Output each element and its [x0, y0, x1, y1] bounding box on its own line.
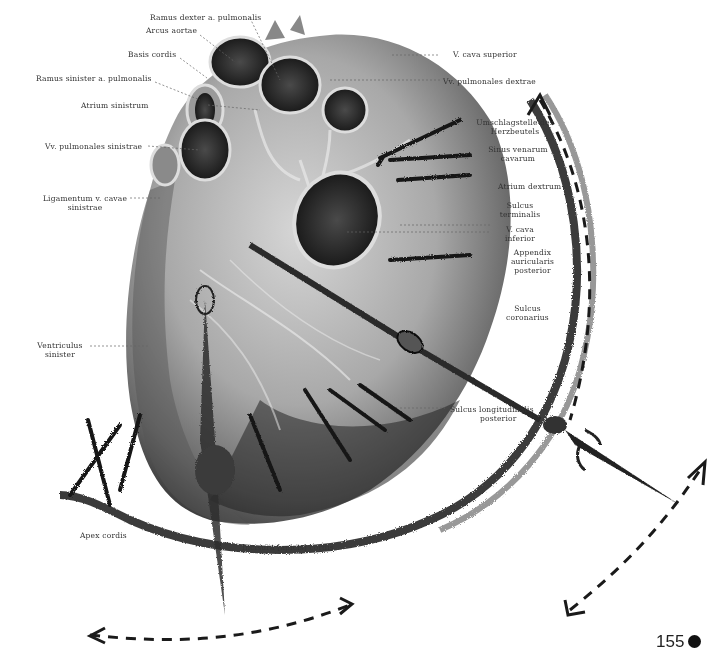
label-ligamentum-line2: sinistrae — [40, 203, 130, 212]
label-v-cava-superior: V. cava superior — [453, 50, 517, 59]
label-sulcus-coronarius-line1: Sulcus — [500, 304, 555, 313]
label-sulcus-terminalis-line1: Sulcus — [490, 201, 550, 210]
label-ventriculus-line1: Ventriculus — [30, 341, 90, 350]
label-sinus-venarum-cavarum: Sinus venarum cavarum — [478, 145, 558, 163]
heart-body — [126, 35, 511, 525]
label-umschlagstelle-line1: Umschlagstelle des — [470, 118, 560, 127]
label-v-cava-inferior-line2: inferior — [495, 234, 545, 243]
page-number: 155 — [656, 632, 701, 652]
label-vv-pulmonales-sinistrae: Vv. pulmonales sinistrae — [45, 142, 142, 151]
label-appendix-line1: Appendix — [505, 248, 560, 257]
label-sulcus-longitudinalis-line2: posterior — [450, 414, 534, 423]
label-v-cava-inferior: V. cava inferior — [495, 225, 545, 243]
label-sulcus-coronarius: Sulcus coronarius — [500, 304, 555, 322]
label-atrium-dextrum: Atrium dextrum — [498, 182, 561, 191]
label-apex-cordis: Apex cordis — [80, 531, 127, 540]
label-ligamentum: Ligamentum v. cavae sinistrae — [40, 194, 130, 212]
label-sulcus-longitudinalis-line1: Sulcus longitudinalis — [450, 405, 534, 414]
heart-illustration — [0, 0, 727, 666]
label-sulcus-coronarius-line2: coronarius — [500, 313, 555, 322]
label-basis-cordis: Basis cordis — [128, 50, 176, 59]
label-ligamentum-line1: Ligamentum v. cavae — [40, 194, 130, 203]
label-ventriculus-line2: sinister — [30, 350, 90, 359]
label-sulcus-longitudinalis: Sulcus longitudinalis posterior — [450, 405, 534, 423]
label-ramus-dexter: Ramus dexter a. pulmonalis — [150, 13, 261, 22]
filled-circle-icon — [688, 635, 701, 648]
label-appendix-line2: auricularis — [505, 257, 560, 266]
label-ventriculus-sinister: Ventriculus sinister — [30, 341, 90, 359]
label-sulcus-terminalis: Sulcus terminalis — [490, 201, 550, 219]
label-sulcus-terminalis-line2: terminalis — [490, 210, 550, 219]
label-appendix-line3: posterior — [505, 266, 560, 275]
label-appendix-auricularis: Appendix auricularis posterior — [505, 248, 560, 275]
label-incisura: Incisura [apicis] cordis — [242, 543, 334, 552]
label-sinus-line1: Sinus venarum — [478, 145, 558, 154]
label-umschlagstelle: Umschlagstelle des Herzbeutels — [470, 118, 560, 136]
label-arcus-aortae: Arcus aortae — [146, 26, 197, 35]
page-number-text: 155 — [656, 632, 684, 651]
label-umschlagstelle-line2: Herzbeutels — [470, 127, 560, 136]
label-vv-pulmonales-dextrae: Vv. pulmonales dextrae — [443, 77, 536, 86]
label-sinus-line2: cavarum — [478, 154, 558, 163]
label-atrium-sinistrum: Atrium sinistrum — [81, 101, 149, 110]
label-ramus-sinister: Ramus sinister a. pulmonalis — [36, 74, 152, 83]
label-v-cava-inferior-line1: V. cava — [495, 225, 545, 234]
